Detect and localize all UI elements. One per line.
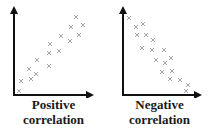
x-mark-icon [140,46,144,50]
x-mark-icon [154,58,158,62]
x-mark-icon [48,42,52,46]
x-mark-icon [59,34,63,38]
x-axis-arrow-icon [194,91,202,98]
x-mark-icon [141,22,145,26]
x-axis-arrow-icon [86,91,94,98]
negative-scatter-plot [106,0,213,98]
panel-title-line1: Negative [106,98,213,112]
x-mark-icon [47,64,51,68]
x-mark-icon [69,25,73,29]
panel-title-line1: Positive [0,98,107,112]
y-axis-arrow-icon [10,6,18,14]
x-mark-icon [47,51,51,55]
x-mark-icon [34,72,38,76]
data-points [127,16,190,93]
x-mark-icon [19,79,23,83]
panel-title-line2: correlation [0,113,107,127]
x-mark-icon [29,77,33,81]
y-axis-arrow-icon [119,6,127,14]
x-mark-icon [151,38,155,42]
x-mark-icon [160,70,164,74]
x-mark-icon [150,48,154,52]
x-mark-icon [68,39,72,43]
x-mark-icon [57,49,61,53]
data-points [17,15,85,93]
negative-correlation-panel: Negative correlation [106,0,213,132]
x-mark-icon [144,33,148,37]
x-mark-icon [27,67,31,71]
x-mark-icon [77,33,81,37]
x-mark-icon [169,56,173,60]
x-mark-icon [162,48,166,52]
x-mark-icon [168,77,172,81]
x-mark-icon [81,23,85,27]
x-mark-icon [163,61,167,65]
panel-title-line2: correlation [106,113,213,127]
x-mark-icon [74,15,78,19]
positive-correlation-panel: Positive correlation [0,0,107,132]
x-mark-icon [35,58,39,62]
axes [10,6,94,98]
x-mark-icon [186,83,190,87]
axes [119,6,202,98]
x-mark-icon [170,69,174,73]
x-mark-icon [127,16,131,20]
positive-scatter-plot [0,0,107,98]
x-mark-icon [184,89,188,93]
x-mark-icon [135,33,139,37]
x-mark-icon [17,89,21,93]
x-mark-icon [134,25,138,29]
x-mark-icon [178,78,182,82]
